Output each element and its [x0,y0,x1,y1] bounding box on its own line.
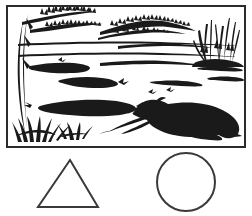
framed-scene [7,3,245,147]
scene-svg [0,0,252,216]
triangle-outline [38,160,98,207]
illustration-canvas [0,0,252,216]
circle-outline [157,153,215,211]
